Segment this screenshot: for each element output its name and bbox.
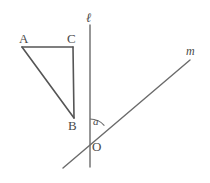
figure-drawing-surface xyxy=(0,0,210,183)
point-label-B: B xyxy=(68,119,77,132)
line-label-m: m xyxy=(186,45,195,57)
point-label-C: C xyxy=(67,32,76,45)
point-label-A: A xyxy=(19,32,28,45)
line-label-l: ℓ xyxy=(86,11,91,24)
angle-label-a: a xyxy=(93,116,99,127)
segment-CB xyxy=(73,47,74,118)
segment-AB xyxy=(22,47,74,118)
point-label-O: O xyxy=(92,140,101,153)
line-m xyxy=(63,60,190,168)
geometry-figure: A C B O ℓ m a xyxy=(0,0,210,183)
